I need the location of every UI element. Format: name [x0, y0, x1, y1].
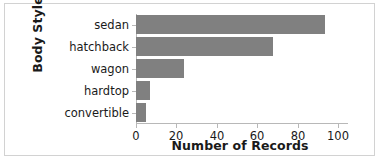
chart-figure: Body Style sedan hatchback wagon — [0, 0, 383, 166]
x-axis-tick — [136, 124, 137, 128]
y-axis-tick-label: sedan — [94, 18, 129, 32]
y-axis-title: Body Style — [30, 0, 45, 95]
y-axis-tick-label: hatchback — [69, 40, 129, 54]
x-axis-tick — [298, 124, 299, 128]
plot-area: sedan hatchback wagon hardtop conver — [132, 12, 348, 124]
bar-wagon — [136, 59, 184, 78]
bar-sedan — [136, 15, 325, 34]
x-axis-tick — [217, 124, 218, 128]
y-axis-tick-label: hardtop — [84, 84, 129, 98]
chart-frame: Body Style sedan hatchback wagon — [4, 3, 375, 156]
bar-hatchback — [136, 37, 273, 56]
x-axis-tick — [176, 124, 177, 128]
x-axis-title: Number of Records — [132, 138, 348, 153]
x-axis-tick — [338, 124, 339, 128]
y-axis-tick-label: convertible — [64, 106, 129, 120]
y-axis-tick-label: wagon — [91, 62, 129, 76]
x-axis-tick — [257, 124, 258, 128]
bar-hardtop — [136, 81, 150, 100]
bar-convertible — [136, 103, 146, 122]
x-axis-line — [136, 123, 348, 124]
